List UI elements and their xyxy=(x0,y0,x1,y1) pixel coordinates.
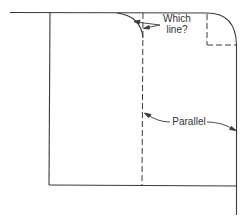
drafting-diagram xyxy=(0,0,247,221)
bottom-edge-line xyxy=(49,185,237,186)
arrowhead-icon xyxy=(144,26,150,30)
parallel-label: Parallel xyxy=(170,116,208,127)
which-line-label: Which line? xyxy=(161,13,193,35)
which-line-label-line1: Which xyxy=(161,13,193,24)
fillet-arc xyxy=(117,13,143,38)
dashed-vertical-line xyxy=(142,13,143,185)
rounded-corner-arc xyxy=(207,13,237,45)
which-line-label-line2: line? xyxy=(161,24,193,35)
left-edge-line xyxy=(49,13,50,186)
